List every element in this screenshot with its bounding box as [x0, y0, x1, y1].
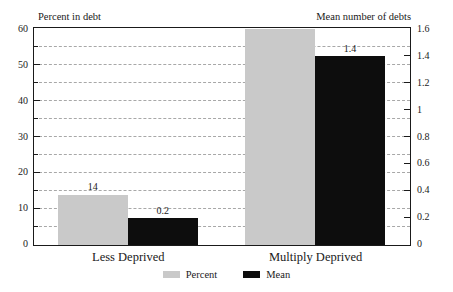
axis-tick-right [404, 190, 410, 191]
legend-swatch-percent-icon [163, 271, 180, 278]
axis-tick-left-minor [34, 46, 38, 47]
right-tick-label-1: 1.4 [417, 51, 430, 61]
axis-tick-right [404, 163, 410, 164]
right-tick-label-3: 1 [417, 105, 422, 115]
left-tick-label-0: 60 [6, 24, 28, 34]
bar-percent-1 [245, 29, 315, 245]
category-label-0: Less Deprived [38, 250, 218, 265]
axis-tick-left [34, 64, 40, 65]
right-tick-label-6: 0.4 [417, 185, 430, 195]
category-label-1: Multiply Deprived [226, 250, 406, 265]
chart-legend: Percent Mean [0, 269, 453, 280]
axis-tick-right [404, 217, 410, 218]
left-tick-label-1: 50 [6, 60, 28, 70]
right-tick-label-7: 0.2 [417, 212, 430, 222]
plot-area: 140.2601.4 [33, 27, 411, 246]
axis-tick-left-minor [34, 154, 38, 155]
bar-value-mean-1: 1.4 [315, 43, 385, 54]
left-tick-label-2: 40 [6, 96, 28, 106]
left-tick-label-3: 30 [6, 132, 28, 142]
bar-percent-0 [58, 195, 128, 245]
right-axis-title: Mean number of debts [316, 11, 411, 23]
axis-tick-left [34, 172, 40, 173]
bar-value-mean-0: 0.2 [128, 205, 198, 216]
legend-label-percent: Percent [186, 269, 218, 280]
axis-tick-right [404, 55, 410, 56]
axis-tick-right [404, 82, 410, 83]
axis-tick-left-minor [34, 226, 38, 227]
legend-item-percent: Percent [163, 269, 218, 280]
axis-tick-left-minor [34, 190, 38, 191]
chart-figure: Percent in debt Mean number of debts 140… [0, 0, 453, 292]
axis-tick-left [34, 136, 40, 137]
left-axis-title: Percent in debt [38, 11, 101, 23]
right-tick-label-2: 1.2 [417, 78, 430, 88]
right-tick-label-5: 0.6 [417, 158, 430, 168]
axis-tick-left-minor [34, 82, 38, 83]
axis-tick-right [404, 109, 410, 110]
legend-item-mean: Mean [243, 269, 290, 280]
right-tick-label-0: 1.6 [417, 24, 430, 34]
left-tick-label-5: 10 [6, 203, 28, 213]
legend-label-mean: Mean [266, 269, 290, 280]
axis-tick-left [34, 208, 40, 209]
plot-inner: 140.2601.4 [34, 28, 410, 245]
bar-mean-1 [315, 56, 385, 245]
left-tick-label-6: 0 [6, 239, 28, 249]
axis-tick-left [34, 100, 40, 101]
right-tick-label-4: 0.8 [417, 132, 430, 142]
axis-tick-left-minor [34, 118, 38, 119]
legend-swatch-mean-icon [243, 271, 260, 278]
bar-mean-0 [128, 218, 198, 245]
axis-tick-right [404, 136, 410, 137]
right-tick-label-8: 0 [417, 239, 422, 249]
left-tick-label-4: 20 [6, 167, 28, 177]
bar-value-percent-0: 14 [58, 181, 128, 192]
